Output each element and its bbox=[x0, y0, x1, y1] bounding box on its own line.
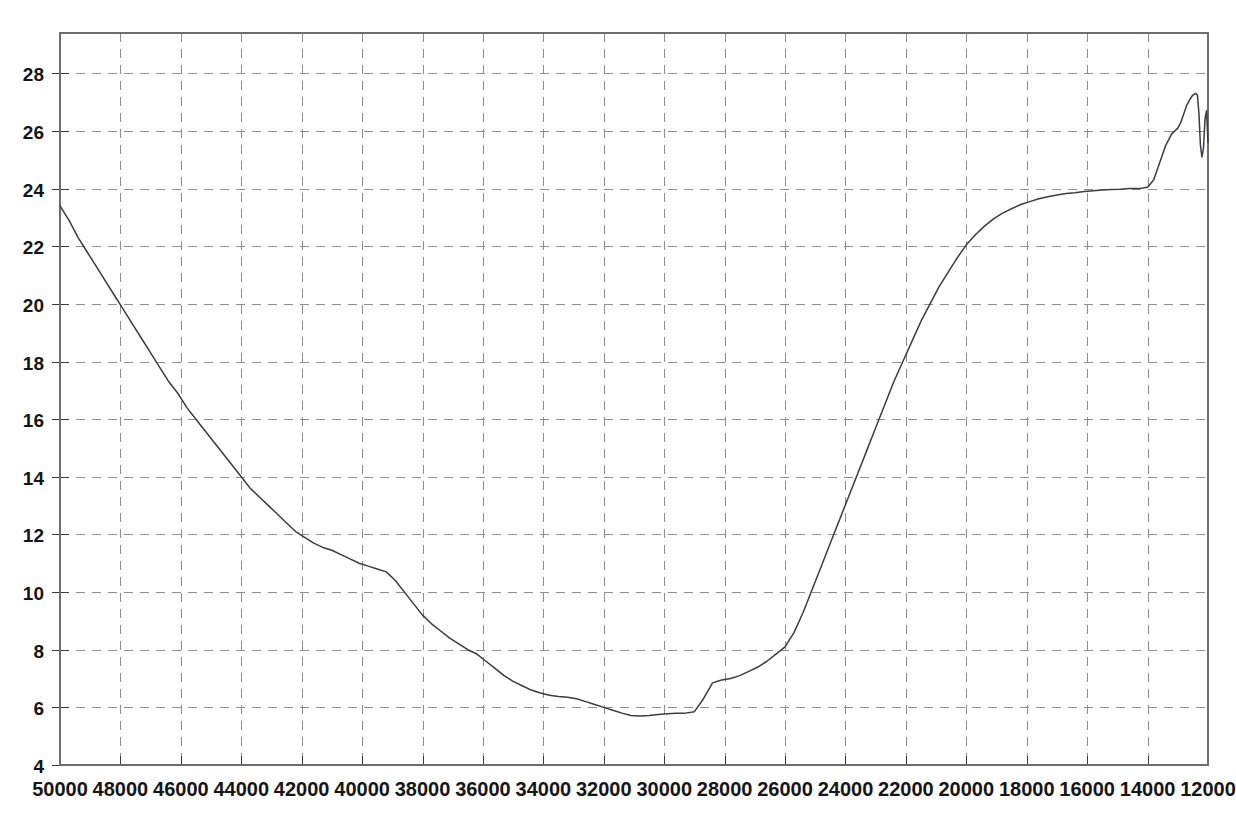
y-tick-label: 18 bbox=[23, 353, 44, 374]
x-tick-label: 24000 bbox=[818, 778, 874, 800]
y-tick-label: 24 bbox=[23, 180, 45, 201]
x-tick-label: 38000 bbox=[395, 778, 451, 800]
y-tick-label: 28 bbox=[23, 64, 44, 85]
x-tick-label: 34000 bbox=[516, 778, 572, 800]
y-tick-label: 14 bbox=[23, 468, 45, 489]
x-tick-label: 42000 bbox=[274, 778, 330, 800]
x-tick-label: 26000 bbox=[757, 778, 813, 800]
x-tick-label: 16000 bbox=[1059, 778, 1115, 800]
y-tick-label: 6 bbox=[33, 698, 44, 719]
y-tick-label: 16 bbox=[23, 410, 44, 431]
y-tick-label: 10 bbox=[23, 583, 44, 604]
x-tick-label: 18000 bbox=[999, 778, 1055, 800]
y-tick-label: 22 bbox=[23, 237, 44, 258]
y-tick-label: 4 bbox=[33, 756, 44, 777]
y-tick-label: 12 bbox=[23, 525, 44, 546]
x-tick-label: 36000 bbox=[455, 778, 511, 800]
x-tick-label: 48000 bbox=[93, 778, 149, 800]
x-tick-label: 50000 bbox=[32, 778, 88, 800]
x-tick-label: 14000 bbox=[1120, 778, 1176, 800]
x-tick-label: 28000 bbox=[697, 778, 753, 800]
x-tick-label: 40000 bbox=[334, 778, 390, 800]
x-tick-label: 12000 bbox=[1180, 778, 1236, 800]
x-tick-label: 44000 bbox=[213, 778, 269, 800]
x-tick-label: 32000 bbox=[576, 778, 632, 800]
y-tick-label: 8 bbox=[33, 641, 44, 662]
x-tick-label: 30000 bbox=[636, 778, 692, 800]
x-tick-label: 20000 bbox=[939, 778, 995, 800]
line-chart: 5000048000460004400042000400003800036000… bbox=[0, 0, 1236, 823]
x-tick-label: 22000 bbox=[878, 778, 934, 800]
y-tick-label: 26 bbox=[23, 122, 44, 143]
y-tick-label: 20 bbox=[23, 295, 44, 316]
chart-background bbox=[0, 0, 1236, 823]
chart-figure: 5000048000460004400042000400003800036000… bbox=[0, 0, 1236, 823]
x-tick-label: 46000 bbox=[153, 778, 209, 800]
